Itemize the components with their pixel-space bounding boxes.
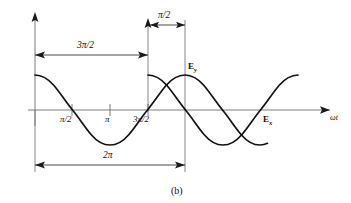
waveform-diagram [0, 0, 351, 203]
curve-label-Ey-subscript: y [194, 66, 197, 73]
x-axis-label: ωt [330, 114, 338, 122]
curve-label-Ex: Ex [263, 115, 272, 126]
curve-label-Ey: Ey [188, 62, 197, 73]
curve-label-Ex-subscript: x [269, 119, 272, 126]
reference-line-three-pi-over-2 [145, 18, 152, 112]
y-axis-origin [32, 12, 39, 126]
tick-label-pi-over-2: π/2 [60, 115, 72, 124]
tick-label-three-pi-over-2: 3π/2 [133, 115, 149, 124]
dimension-three-pi-over-2 [35, 52, 148, 59]
figure-caption: (b) [171, 186, 183, 196]
dimension-label-three-pi-over-2: 3π/2 [77, 41, 94, 51]
dimension-two-pi [35, 162, 185, 169]
figure-container: π/2 π 3π/2 3π/2 π/2 2π Ey Ex ωt (b) [0, 0, 351, 203]
dimension-pi-over-2 [150, 22, 185, 28]
dimension-label-pi-over-2: π/2 [158, 11, 170, 21]
dimension-label-two-pi: 2π [103, 151, 113, 161]
tick-label-pi: π [105, 115, 110, 124]
